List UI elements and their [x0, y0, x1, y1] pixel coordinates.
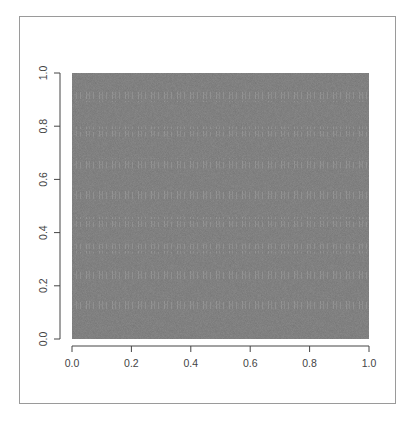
glyph-row — [74, 299, 367, 309]
glyph-row — [74, 244, 367, 254]
x-tick-label: 0.0 — [65, 357, 80, 369]
raster-image — [72, 73, 369, 339]
glyph-row — [74, 92, 367, 102]
y-tick-label: 0.0 — [37, 332, 49, 347]
y-tick-label: 0.6 — [37, 172, 49, 187]
y-axis: 0.00.20.40.60.81.0 — [37, 66, 60, 347]
plot-canvas: 0.00.20.40.60.81.0 0.00.20.40.60.81.0 — [0, 0, 413, 425]
glyph-row — [74, 190, 367, 200]
glyph-row — [74, 270, 367, 280]
x-tick-label: 0.6 — [243, 357, 258, 369]
x-tick-label: 1.0 — [362, 357, 377, 369]
x-tick-label: 0.4 — [183, 357, 198, 369]
glyph-row — [74, 127, 367, 137]
glyph-row — [74, 217, 367, 227]
y-tick-label: 0.4 — [37, 225, 49, 240]
y-tick-label: 0.2 — [37, 278, 49, 293]
y-tick-label: 0.8 — [37, 119, 49, 134]
y-tick-label: 1.0 — [37, 66, 49, 81]
x-axis: 0.00.20.40.60.81.0 — [65, 346, 377, 369]
x-tick-label: 0.8 — [302, 357, 317, 369]
x-tick-label: 0.2 — [124, 357, 139, 369]
glyph-row — [74, 158, 367, 168]
